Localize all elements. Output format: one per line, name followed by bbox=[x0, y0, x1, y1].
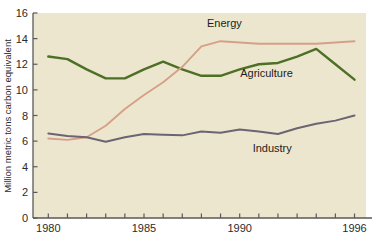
y-tick-label: 6 bbox=[22, 135, 28, 147]
y-tick-label: 2 bbox=[22, 186, 28, 198]
x-tick-label: 1985 bbox=[132, 222, 156, 234]
series-label-industry: Industry bbox=[253, 142, 293, 154]
x-tick-label: 1990 bbox=[227, 222, 251, 234]
y-tick-label: 16 bbox=[16, 7, 28, 19]
chart-figure: 0246810121416 1980198519901996 EnergyAgr… bbox=[0, 0, 382, 236]
y-tick-label: 0 bbox=[22, 212, 28, 224]
y-tick-label: 4 bbox=[22, 161, 28, 173]
series-label-agriculture: Agriculture bbox=[240, 67, 293, 79]
series-label-energy: Energy bbox=[207, 17, 242, 29]
y-axis-title: Million metric tons carbon equivalent bbox=[2, 39, 13, 193]
y-tick-label: 10 bbox=[16, 84, 28, 96]
x-tick-label: 1996 bbox=[342, 222, 366, 234]
y-axis-tick-labels: 0246810121416 bbox=[16, 7, 28, 224]
y-tick-label: 8 bbox=[22, 110, 28, 122]
y-tick-label: 14 bbox=[16, 33, 28, 45]
line-chart: 0246810121416 1980198519901996 EnergyAgr… bbox=[0, 0, 382, 236]
y-tick-label: 12 bbox=[16, 58, 28, 70]
x-axis-tick-labels: 1980198519901996 bbox=[36, 222, 367, 234]
x-tick-label: 1980 bbox=[36, 222, 60, 234]
